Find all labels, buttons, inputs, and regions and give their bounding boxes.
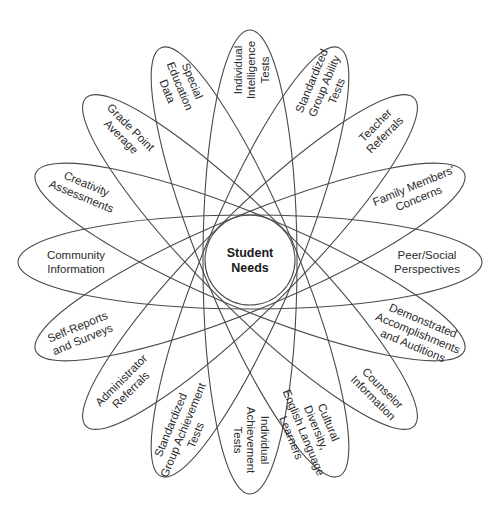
petal-label-line: Community — [47, 249, 105, 261]
petal-label-creativity-assessments: CreativityAssessments — [48, 165, 121, 215]
student-needs-flower-diagram: StudentNeeds IndividualIntelligenceTests… — [0, 0, 501, 517]
petal-label-demonstrated-accomplishments-and-auditions: DemonstratedAccomplishmentsand Auditions — [369, 298, 467, 369]
hub-label-line: Student — [227, 246, 274, 260]
petal-label-individual-intelligence-tests: IndividualIntelligenceTests — [232, 41, 271, 99]
petal-label-line: Perspectives — [394, 263, 460, 275]
petal-label-line: Tests — [259, 56, 271, 83]
petal-label-line: Achievement — [245, 407, 257, 474]
petal-label-counselor-information: CounselorInformation — [349, 364, 408, 423]
petal-label-administrator-referrals: AdministratorReferrals — [93, 352, 159, 418]
petal-label-individual-achievement-tests: IndividualAchievementTests — [232, 407, 271, 474]
center-hub-label: StudentNeeds — [227, 246, 274, 275]
petal-label-peer-social-perspectives: Peer/SocialPerspectives — [394, 249, 460, 275]
petal-label-grade-point-average: Grade PointAverage — [95, 101, 157, 163]
petal-label-line: Information — [47, 263, 105, 275]
petal-label-community-information: CommunityInformation — [47, 249, 105, 275]
petal-label-line: Intelligence — [245, 41, 257, 99]
petal-label-line: Peer/Social — [398, 249, 457, 261]
petal-label-special-education-data: SpecialEducationData — [152, 55, 208, 117]
petal-label-cultural-diversity-english-language-learners: CulturalDiversity,English LanguageLearne… — [268, 377, 352, 482]
petal-label-line: Tests — [232, 427, 244, 454]
hub-label-line: Needs — [231, 261, 269, 275]
petal-label-line: Individual — [232, 46, 244, 95]
petal-label-family-members-concerns: Family Members'Concerns — [371, 164, 461, 221]
petal-label-line: Individual — [259, 416, 271, 465]
petal-label-teacher-referrals: TeacherReferrals — [354, 104, 405, 155]
